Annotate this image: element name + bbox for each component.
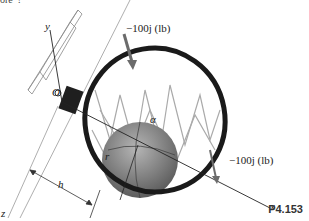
rim-bracket xyxy=(58,86,83,115)
cropped-text: ore”? xyxy=(0,0,22,5)
basketball-hoop-figure: ore”? −100j (lb) −100j (lb) y x z O α r … xyxy=(0,0,309,221)
angle-label: α xyxy=(150,113,156,125)
force-label-right: −100j (lb) xyxy=(229,154,273,166)
axis-label-y: y xyxy=(45,20,50,32)
backboard xyxy=(28,10,82,94)
axis-label-z: z xyxy=(1,207,5,219)
ball xyxy=(102,122,178,198)
origin-label: O xyxy=(52,86,60,98)
figure-caption: P4.153 xyxy=(268,203,303,215)
distance-label: h xyxy=(58,178,64,190)
radius-label: r xyxy=(105,150,109,162)
force-label-top: −100j (lb) xyxy=(126,22,170,34)
